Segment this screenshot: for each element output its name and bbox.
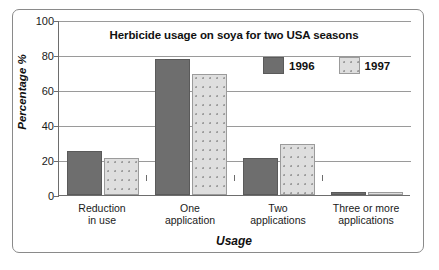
- x-category-label-line: applications: [234, 214, 322, 226]
- y-tick-mark: [54, 196, 59, 197]
- y-tick-label: 40: [42, 121, 54, 132]
- bar: [280, 144, 315, 195]
- y-tick-label: 60: [42, 86, 54, 97]
- y-tick-label: 80: [42, 51, 54, 62]
- x-tick-mark: [146, 175, 147, 181]
- x-axis-title: Usage: [58, 234, 410, 248]
- x-category-label-line: Two: [234, 202, 322, 214]
- y-tick-mark: [54, 91, 59, 92]
- bar: [104, 158, 139, 195]
- gridline: [59, 126, 411, 127]
- gridline: [59, 91, 411, 92]
- legend-swatch: [263, 57, 284, 74]
- x-category-label: Reductionin use: [58, 202, 146, 226]
- chart-legend: 19961997: [263, 57, 390, 74]
- x-category-label-line: Three or more: [322, 202, 410, 214]
- x-category-label: Oneapplication: [146, 202, 234, 226]
- y-tick-mark: [54, 56, 59, 57]
- legend-label: 1996: [289, 60, 315, 72]
- bar: [331, 192, 366, 196]
- y-tick-label: 20: [42, 156, 54, 167]
- legend-entry: 1997: [339, 57, 391, 74]
- bar: [368, 192, 403, 196]
- x-category-label-line: Reduction: [58, 202, 146, 214]
- y-axis-tick-labels: 020406080100: [26, 21, 54, 196]
- x-tick-mark: [58, 175, 59, 181]
- legend-label: 1997: [365, 60, 391, 72]
- legend-entry: 1996: [263, 57, 315, 74]
- bar: [155, 59, 190, 196]
- x-category-label-line: application: [146, 214, 234, 226]
- x-category-label-line: in use: [58, 214, 146, 226]
- y-tick-mark: [54, 126, 59, 127]
- bar: [192, 74, 227, 195]
- gridline: [59, 21, 411, 22]
- x-category-label-line: One: [146, 202, 234, 214]
- y-tick-label: 100: [36, 16, 54, 27]
- x-category-label-line: applications: [322, 214, 410, 226]
- y-tick-mark: [54, 161, 59, 162]
- chart-title: Herbicide usage on soya for two USA seas…: [58, 29, 410, 41]
- bar: [67, 151, 102, 195]
- bar: [243, 158, 278, 195]
- x-category-label: Three or moreapplications: [322, 202, 410, 226]
- y-tick-mark: [54, 21, 59, 22]
- plot-area: [58, 21, 410, 196]
- chart-figure: Percentage % 020406080100 Herbicide usag…: [0, 0, 439, 270]
- x-category-label: Twoapplications: [234, 202, 322, 226]
- legend-swatch: [339, 57, 360, 74]
- x-tick-mark: [234, 175, 235, 181]
- x-tick-mark: [322, 175, 323, 181]
